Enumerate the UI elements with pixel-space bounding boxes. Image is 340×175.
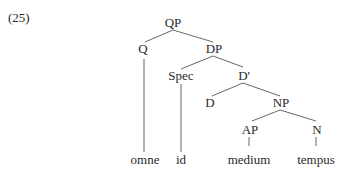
node-d: D	[205, 96, 214, 110]
leaf-medium: medium	[228, 153, 271, 167]
node-ap: AP	[242, 123, 259, 137]
leaf-id: id	[176, 153, 186, 167]
node-np: NP	[273, 96, 290, 110]
leaf-tempus: tempus	[297, 153, 335, 167]
leaf-omne: omne	[131, 153, 160, 167]
node-spec: Spec	[168, 69, 193, 83]
node-qp: QP	[165, 16, 182, 30]
node-dp: DP	[206, 42, 223, 56]
node-n: N	[312, 123, 321, 137]
node-dbar: D'	[238, 69, 250, 83]
node-q: Q	[138, 42, 147, 56]
